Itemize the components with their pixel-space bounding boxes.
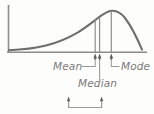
- span-arrow-left-head: [67, 97, 70, 102]
- mean-arrow-stem: [95, 56, 96, 61]
- median-arrow-stem: [99, 56, 100, 61]
- mode-arrow-stem: [111, 56, 112, 61]
- leader-lines-group: [82, 61, 119, 79]
- mode-leader-line: [111, 61, 119, 67]
- mean-label: Mean: [53, 60, 82, 72]
- baseline-arrowheads-group: [93, 54, 113, 61]
- labels-group: Mean Median Mode: [53, 60, 150, 89]
- span-arrow-right-head: [100, 97, 103, 102]
- distribution-curve: [9, 11, 142, 50]
- axes-group: [7, 5, 147, 53]
- figure-canvas: Mean Median Mode: [0, 0, 154, 114]
- span-arrow-group: [67, 97, 103, 108]
- mode-label: Mode: [121, 60, 150, 72]
- distribution-figure: Mean Median Mode: [0, 0, 154, 114]
- span-arrow-bracket: [69, 101, 102, 108]
- median-label: Median: [78, 77, 117, 89]
- mean-leader-line: [82, 61, 95, 67]
